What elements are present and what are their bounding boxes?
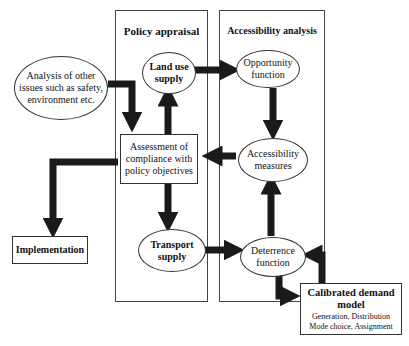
transport-supply-node: Transport supply bbox=[138, 229, 206, 272]
assessment-node: Assessment of compliance with policy obj… bbox=[120, 134, 198, 184]
calibrated-demand-model-node: Calibrated demand model Generation, Dist… bbox=[300, 283, 402, 335]
arrow-demand-to-deterrence bbox=[312, 255, 322, 283]
arrow-deterrence-to-demand bbox=[279, 274, 290, 296]
arrow-other-to-assessment bbox=[108, 84, 132, 122]
demand-model-title: Calibrated demand model bbox=[307, 287, 394, 312]
accessibility-measures-node: Accessibility measures bbox=[238, 138, 308, 182]
arrow-assessment-to-implementation bbox=[53, 162, 118, 228]
land-use-supply-node: Land use supply bbox=[142, 52, 196, 94]
deterrence-function-node: Deterrence function bbox=[240, 237, 306, 277]
opportunity-function-node: Opportunity function bbox=[236, 50, 300, 88]
other-issues-node: Analysis of other issues such as safety,… bbox=[14, 56, 108, 120]
implementation-node: Implementation bbox=[12, 236, 88, 264]
demand-model-subtitle: Generation, Distribution Mode choice, As… bbox=[309, 312, 392, 331]
